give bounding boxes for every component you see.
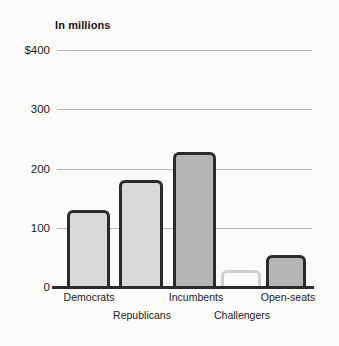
- x-label-democrats: Democrats: [64, 291, 115, 303]
- bar-open-seats[interactable]: [266, 255, 306, 287]
- x-label-challengers: Challengers: [214, 309, 270, 321]
- chart-title: In millions: [55, 19, 111, 31]
- x-label-republicans: Republicans: [113, 309, 171, 321]
- gridline-300: [57, 109, 312, 110]
- bar-challengers[interactable]: [221, 270, 261, 287]
- y-tick-200: 200: [31, 163, 50, 175]
- bar-democrats[interactable]: [67, 210, 110, 287]
- x-axis-labels: Democrats Republicans Incumbents Challen…: [0, 289, 339, 344]
- y-tick-400: $400: [24, 44, 50, 56]
- y-tick-300: 300: [31, 103, 50, 115]
- bar-incumbents[interactable]: [173, 152, 216, 287]
- x-label-incumbents: Incumbents: [169, 291, 223, 303]
- chart-canvas: In millions $400 300 200 100 0 Democrats…: [0, 0, 339, 346]
- x-label-open-seats: Open-seats: [261, 291, 315, 303]
- plot-area: [57, 50, 312, 287]
- y-axis-labels: $400 300 200 100 0: [0, 50, 50, 287]
- bar-republicans[interactable]: [119, 180, 163, 287]
- y-tick-100: 100: [31, 222, 50, 234]
- gridline-400: [57, 50, 312, 51]
